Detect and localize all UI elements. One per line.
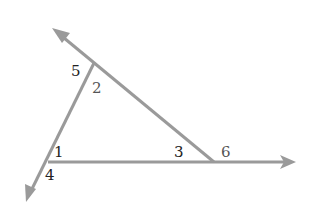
angle-label-1: 1 bbox=[54, 143, 64, 161]
ray-lower-left bbox=[25, 63, 94, 202]
ray-upper-left bbox=[52, 28, 214, 162]
angle-label-3: 3 bbox=[174, 143, 184, 161]
angle-label-2: 2 bbox=[92, 79, 102, 97]
angle-label-5: 5 bbox=[71, 62, 81, 80]
ray-right bbox=[48, 155, 296, 169]
angle-label-4: 4 bbox=[45, 166, 55, 184]
angle-label-6: 6 bbox=[221, 143, 231, 161]
triangle-diagram: 1 2 3 4 5 6 bbox=[0, 0, 326, 210]
